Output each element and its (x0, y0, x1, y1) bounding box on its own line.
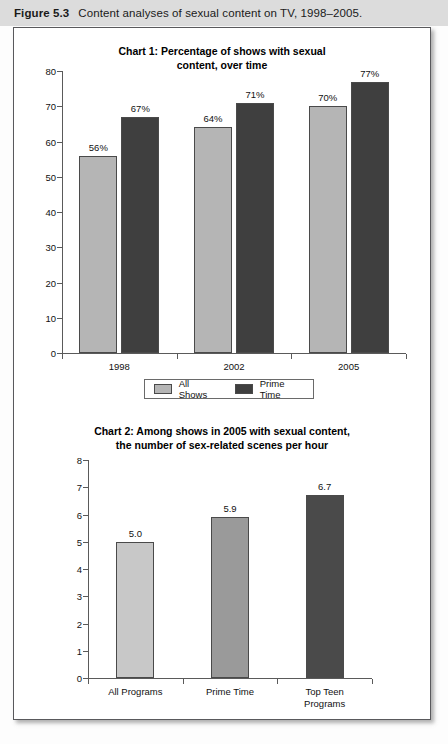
chart2-y-tick-label: 0 (56, 673, 82, 684)
chart2-y-tick (83, 651, 88, 652)
chart2-x-tick (277, 679, 278, 684)
chart2-y-tick-label: 2 (56, 618, 82, 629)
figure-panel: Chart 1: Percentage of shows with sexual… (13, 27, 431, 720)
chart2-y-tick-label: 6 (56, 509, 82, 520)
chart2-y-tick-label: 1 (56, 645, 82, 656)
chart2-bar-value-label: 6.7 (294, 481, 356, 492)
chart2-x-tick-label-line: All Programs (90, 686, 180, 698)
chart2-y-tick (83, 460, 88, 461)
chart2-y-tick-label: 7 (56, 482, 82, 493)
chart2-y-tick-label: 8 (56, 455, 82, 466)
chart2-bar (306, 495, 344, 678)
chart2-bar (116, 542, 154, 678)
chart2-bar (211, 517, 249, 678)
figure-caption-label: Figure 5.3 (14, 7, 69, 19)
chart2-x-axis (88, 678, 372, 679)
chart2-y-tick-label: 4 (56, 564, 82, 575)
chart2-y-tick (83, 596, 88, 597)
chart2-y-tick-label: 5 (56, 536, 82, 547)
chart2-y-tick (83, 487, 88, 488)
chart2-bar-value-label: 5.0 (104, 528, 166, 539)
figure-page: Figure 5.3Content analyses of sexual con… (0, 0, 448, 744)
chart2-x-tick-label: Top TeenPrograms (280, 686, 370, 710)
chart2-x-tick (183, 679, 184, 684)
chart2-y-tick (83, 624, 88, 625)
chart2-y-axis (88, 460, 89, 679)
chart2-y-tick (83, 515, 88, 516)
chart2-x-tick-label-line: Top Teen (280, 686, 370, 698)
chart2-x-tick-label-line: Prime Time (185, 686, 275, 698)
chart2-x-tick-label-line: Programs (280, 698, 370, 710)
chart2-x-tick (88, 679, 89, 684)
chart2-plot-area: 0123456785.0All Programs5.9Prime Time6.7… (14, 28, 430, 718)
figure-caption: Figure 5.3Content analyses of sexual con… (0, 7, 362, 19)
chart2-x-tick (372, 679, 373, 684)
chart2-bar-value-label: 5.9 (199, 503, 261, 514)
chart2-x-tick-label: Prime Time (185, 686, 275, 698)
chart2-y-tick (83, 542, 88, 543)
chart2-y-tick (83, 569, 88, 570)
figure-caption-band: Figure 5.3Content analyses of sexual con… (0, 0, 448, 26)
chart2-x-tick-label: All Programs (90, 686, 180, 698)
chart2-y-tick-label: 3 (56, 591, 82, 602)
figure-caption-text: Content analyses of sexual content on TV… (78, 7, 362, 19)
